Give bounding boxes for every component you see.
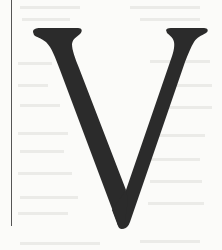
drop-cap-letter-v xyxy=(0,0,222,250)
scanned-page: V xyxy=(0,0,222,250)
